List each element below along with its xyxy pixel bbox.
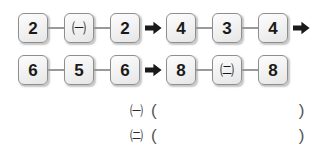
connector [48,27,64,28]
row-1-left-cell-3[interactable]: 2 [110,13,140,43]
sequence-row-2: 6 5 6 8 ㈡ 8 [0,50,333,90]
answer-blank-b[interactable] [157,135,299,136]
row-2-left-cell-3[interactable]: 6 [110,55,140,85]
row-1-left-cell-2-symbol-a[interactable]: ㈠ [64,13,94,43]
row-1-right-cell-2[interactable]: 3 [212,13,242,43]
row-2-left-cell-2[interactable]: 5 [64,55,94,85]
connector [242,27,258,28]
answer-line-a: ㈠ ( ) [130,98,304,122]
row-1-left-cell-1[interactable]: 2 [18,13,48,43]
answer-symbol-b: ㈡ [130,129,148,142]
answer-paren-close-a: ) [299,102,305,119]
row-2-left-cell-1[interactable]: 6 [18,55,48,85]
row-1-right-cell-3[interactable]: 4 [258,13,288,43]
row-2-right-cell-3[interactable]: 8 [258,55,288,85]
row-2-right-cell-2-symbol-b[interactable]: ㈡ [212,55,242,85]
answer-paren-close-b: ) [299,127,305,144]
connector [94,69,110,70]
right-arrow-icon [140,21,166,35]
row-2-right-cell-1[interactable]: 8 [166,55,196,85]
answer-blank-a[interactable] [157,110,299,111]
connector [48,69,64,70]
connector [94,27,110,28]
answer-symbol-a: ㈠ [130,104,148,117]
row-2-right-group: 8 ㈡ 8 [166,55,288,85]
connector [196,27,212,28]
right-arrow-icon [140,63,166,77]
answer-line-b: ㈡ ( ) [130,123,304,147]
sequence-row-1: 2 ㈠ 2 4 3 4 [0,8,333,48]
row-1-left-group: 2 ㈠ 2 [18,13,140,43]
row-1-right-cell-1[interactable]: 4 [166,13,196,43]
connector [196,69,212,70]
connector [242,69,258,70]
row-2-left-group: 6 5 6 [18,55,140,85]
row-1-right-group: 4 3 4 [166,13,288,43]
right-arrow-icon-trailing [288,21,314,35]
